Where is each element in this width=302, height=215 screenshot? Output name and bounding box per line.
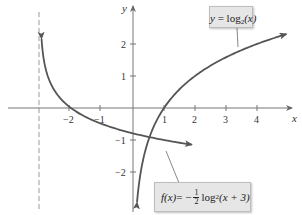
x-tick-label: 4 xyxy=(254,114,259,125)
y-axis-label: y xyxy=(121,2,127,14)
y-tick-label: 1 xyxy=(121,71,126,82)
callout-bottom-arg: (x + 3) xyxy=(219,191,250,203)
fraction: 1 2 xyxy=(193,189,199,206)
callout-top-arg: (x) xyxy=(244,12,256,24)
callout-bottom-pointer xyxy=(166,151,179,183)
x-axis-label: x xyxy=(291,112,297,124)
callout-bottom-lhs: f(x) xyxy=(161,191,176,203)
fraction-denominator: 2 xyxy=(194,198,198,206)
x-tick-label: 3 xyxy=(223,114,228,125)
callout-bottom-log: log xyxy=(201,191,215,203)
y-tick-label: −1 xyxy=(115,135,126,146)
x-tick-label: 1 xyxy=(162,114,167,125)
graph-canvas: −2 −1 1 2 3 4 x 2 1 −1 −2 y xyxy=(0,0,302,215)
x-tick-label: 2 xyxy=(192,114,197,125)
x-tick-label: −2 xyxy=(63,114,74,125)
y-tick-label: −2 xyxy=(115,167,126,178)
callout-log2-label: y = log2(x) xyxy=(209,6,253,28)
callout-f-label: f(x) = − 1 2 log2(x + 3) xyxy=(154,182,251,212)
callout-top-eq: = log xyxy=(215,12,241,24)
callout-top-pointer xyxy=(237,28,238,47)
callout-bottom-eq: = − xyxy=(176,191,191,203)
curve-log2 xyxy=(137,34,286,202)
curve-f xyxy=(42,39,192,145)
y-tick-label: 2 xyxy=(121,39,126,50)
